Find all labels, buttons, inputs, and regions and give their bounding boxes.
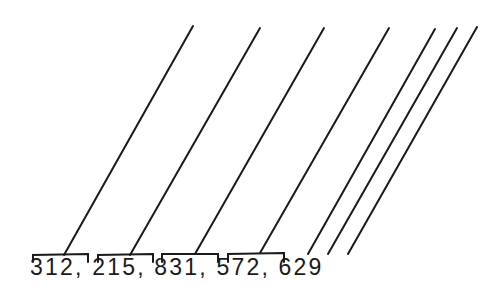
pointer-line-2 xyxy=(130,28,260,255)
pointer-line-1 xyxy=(64,26,193,255)
number-text: 312, 215, 831, 572, 629 xyxy=(30,254,324,281)
pointer-line-4 xyxy=(260,28,389,253)
pointer-line-3 xyxy=(195,28,324,254)
pointer-line-7 xyxy=(348,27,477,254)
pointer-line-5 xyxy=(308,29,435,254)
pointer-line-6 xyxy=(328,28,457,254)
digit-grouping-diagram: 312, 215, 831, 572, 629 xyxy=(0,0,503,300)
